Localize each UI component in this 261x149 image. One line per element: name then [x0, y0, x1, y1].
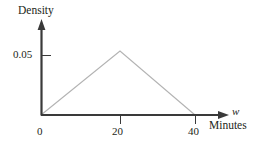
y-axis-title: Density — [18, 5, 54, 17]
x-tick-label-40: 40 — [188, 126, 199, 137]
x-axis-arrowhead — [218, 111, 229, 119]
y-axis-arrowhead — [38, 19, 46, 30]
x-axis-title: Minutes — [209, 120, 247, 132]
x-tick-label-20: 20 — [112, 126, 123, 137]
x-axis-variable-label: w — [232, 106, 239, 117]
density-triangle-chart: Density 0.05 0 20 40 w Minutes — [0, 0, 261, 149]
x-tick-label-0: 0 — [37, 126, 43, 137]
y-tick-label-005: 0.05 — [13, 49, 32, 60]
density-curve — [41, 51, 195, 115]
